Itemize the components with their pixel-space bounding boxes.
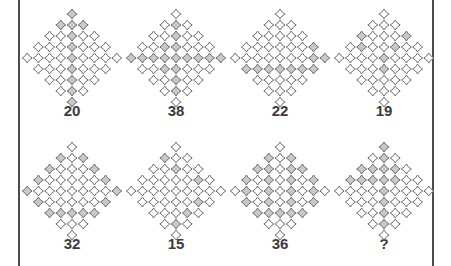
lattice-cell-empty	[368, 75, 378, 85]
lattice-cell-empty	[264, 53, 274, 63]
lattice-cell-shaded	[171, 219, 181, 229]
lattice-cell-shaded	[297, 208, 307, 218]
lattice-cell-empty	[78, 175, 88, 185]
lattice-cell-empty	[56, 219, 66, 229]
puzzle-panel[interactable]: ?	[332, 133, 436, 266]
lattice-cell-shaded	[253, 164, 263, 174]
puzzle-panel-grid: 20382219321536?	[20, 0, 432, 266]
lattice-cell-shaded	[67, 42, 77, 52]
puzzle-panel[interactable]: 38	[124, 0, 228, 133]
lattice-cell-empty	[345, 186, 355, 196]
lattice-cell-empty	[401, 42, 411, 52]
lattice-cell-empty	[401, 64, 411, 74]
lattice-cell-shaded	[253, 64, 263, 74]
lattice-cell-empty	[67, 153, 77, 163]
lattice-cell-empty	[320, 186, 330, 196]
lattice-cell-empty	[286, 75, 296, 85]
lattice-cell-empty	[67, 219, 77, 229]
lattice-cell-empty	[253, 186, 263, 196]
lattice-cell-empty	[67, 186, 77, 196]
lattice-cell-empty	[390, 86, 400, 96]
lattice-cell-empty	[253, 75, 263, 85]
puzzle-panel[interactable]: 22	[228, 0, 332, 133]
lattice-cell-shaded	[171, 42, 181, 52]
lattice-cell-empty	[286, 42, 296, 52]
lattice-cell-empty	[78, 219, 88, 229]
lattice-cell-empty	[45, 175, 55, 185]
lattice-cell-shaded	[171, 20, 181, 30]
lattice-cell-empty	[297, 175, 307, 185]
lattice-cell-shaded	[89, 208, 99, 218]
lattice-cell-empty	[45, 64, 55, 74]
lattice-cell-shaded	[171, 31, 181, 41]
lattice-cell-shaded	[368, 164, 378, 174]
lattice-cell-empty	[78, 53, 88, 63]
lattice-cell-empty	[345, 53, 355, 63]
lattice-cell-empty	[22, 53, 32, 63]
lattice-cell-empty	[56, 164, 66, 174]
lattice-cell-empty	[182, 153, 192, 163]
lattice-cell-empty	[230, 53, 240, 63]
lattice-cell-empty	[216, 186, 226, 196]
lattice-cell-shaded	[379, 186, 389, 196]
lattice-figure	[332, 139, 436, 235]
lattice-cell-empty	[112, 53, 122, 63]
puzzle-frame: 20382219321536?	[18, 0, 434, 266]
lattice-cell-shaded	[149, 53, 159, 63]
lattice-cell-shaded	[160, 153, 170, 163]
lattice-cell-empty	[137, 175, 147, 185]
lattice-cell-empty	[149, 197, 159, 207]
lattice-cell-empty	[78, 42, 88, 52]
lattice-cell-shaded	[216, 53, 226, 63]
lattice-cell-empty	[275, 75, 285, 85]
lattice-cell-empty	[368, 86, 378, 96]
lattice-cell-shaded	[160, 53, 170, 63]
lattice-cell-empty	[297, 186, 307, 196]
lattice-cell-empty	[424, 53, 434, 63]
lattice-cell-empty	[297, 42, 307, 52]
lattice-cell-empty	[33, 42, 43, 52]
lattice-cell-empty	[379, 75, 389, 85]
lattice-cell-shaded	[171, 75, 181, 85]
lattice-cell-empty	[205, 197, 215, 207]
puzzle-panel[interactable]: 15	[124, 133, 228, 266]
lattice-cell-empty	[149, 208, 159, 218]
puzzle-panel[interactable]: 19	[332, 0, 436, 133]
lattice-cell-empty	[67, 175, 77, 185]
lattice-cell-shaded	[78, 208, 88, 218]
lattice-cell-shaded	[309, 197, 319, 207]
puzzle-panel[interactable]: 32	[20, 133, 124, 266]
lattice-cell-empty	[345, 42, 355, 52]
lattice-cell-shaded	[193, 175, 203, 185]
lattice-cell-empty	[56, 175, 66, 185]
lattice-cell-shaded	[264, 175, 274, 185]
lattice-cell-shaded	[309, 42, 319, 52]
lattice-cell-empty	[230, 186, 240, 196]
puzzle-panel[interactable]: 20	[20, 0, 124, 133]
lattice-cell-empty	[149, 175, 159, 185]
lattice-figure	[124, 139, 228, 235]
lattice-cell-shaded	[137, 53, 147, 63]
lattice-cell-empty	[401, 197, 411, 207]
lattice-cell-empty	[149, 164, 159, 174]
lattice-cell-empty	[401, 208, 411, 218]
lattice-cell-empty	[171, 9, 181, 19]
lattice-cell-empty	[160, 164, 170, 174]
lattice-cell-empty	[357, 75, 367, 85]
lattice-cell-empty	[413, 42, 423, 52]
lattice-cell-empty	[193, 186, 203, 196]
lattice-cell-empty	[160, 208, 170, 218]
lattice-cell-empty	[275, 142, 285, 152]
lattice-cell-empty	[401, 75, 411, 85]
puzzle-panel[interactable]: 36	[228, 133, 332, 266]
lattice-cell-empty	[160, 20, 170, 30]
lattice-cell-shaded	[286, 208, 296, 218]
lattice-cell-empty	[193, 64, 203, 74]
lattice-cell-empty	[171, 186, 181, 196]
lattice-cell-empty	[368, 31, 378, 41]
lattice-cell-empty	[193, 164, 203, 174]
lattice-cell-shaded	[56, 20, 66, 30]
lattice-cell-empty	[390, 197, 400, 207]
lattice-cell-shaded	[112, 186, 122, 196]
lattice-cell-empty	[368, 64, 378, 74]
